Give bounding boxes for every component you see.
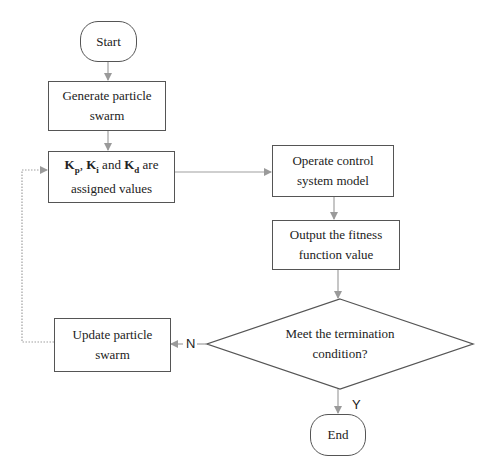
operate-line1: Operate control	[292, 151, 373, 171]
update-line2: swarm	[95, 345, 130, 365]
operate-model-node: Operate control system model	[272, 145, 394, 197]
operate-line2: system model	[297, 171, 369, 191]
decision-line2: condition?	[260, 344, 420, 364]
assign-values-node: Kp, Ki and Kd are assigned values	[48, 151, 175, 203]
generate-swarm-node: Generate particle swarm	[48, 81, 166, 131]
end-label: End	[328, 425, 349, 445]
edge-label-yes: Y	[352, 397, 361, 412]
connector-lines	[0, 0, 492, 472]
assign-line1: Kp, Ki and Kd are	[65, 155, 159, 180]
decision-text: Meet the termination condition?	[260, 324, 420, 364]
output-line1: Output the fitness	[290, 225, 382, 245]
output-fitness-node: Output the fitness function value	[272, 220, 400, 270]
output-line2: function value	[299, 245, 374, 265]
start-node: Start	[80, 21, 137, 62]
decision-line1: Meet the termination	[260, 324, 420, 344]
end-node: End	[310, 414, 366, 456]
update-line1: Update particle	[73, 325, 153, 345]
edge-label-no: N	[186, 336, 195, 351]
start-label: Start	[96, 32, 121, 52]
update-swarm-node: Update particle swarm	[54, 318, 171, 372]
assign-line2: assigned values	[71, 179, 152, 199]
generate-line2: swarm	[90, 106, 125, 126]
generate-line1: Generate particle	[62, 86, 151, 106]
